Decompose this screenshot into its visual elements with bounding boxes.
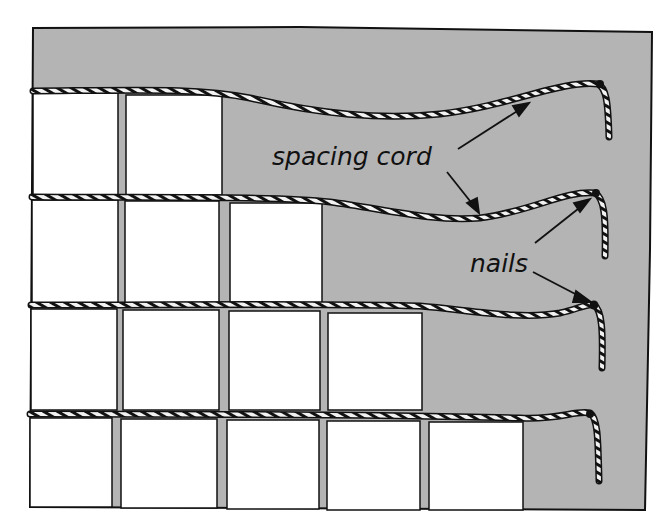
tile: [33, 93, 118, 195]
nail-icon: [592, 189, 600, 197]
tile: [327, 421, 420, 510]
tile-row-2: [32, 200, 322, 303]
tile-spacing-diagram: spacing cord nails: [0, 0, 663, 524]
nail-icon: [586, 410, 594, 418]
tile: [125, 201, 219, 303]
label-spacing-cord: spacing cord: [272, 142, 432, 171]
tile: [227, 420, 319, 509]
tile: [429, 422, 523, 510]
tile: [123, 310, 219, 410]
tile: [121, 419, 217, 508]
tile: [32, 200, 118, 303]
nail-icon: [596, 80, 604, 88]
tile: [230, 203, 322, 303]
tile: [30, 418, 112, 507]
tile-row-1: [33, 93, 222, 195]
tile: [31, 309, 117, 410]
tile: [229, 311, 320, 410]
tile: [126, 95, 222, 195]
tile: [328, 313, 422, 410]
label-nails: nails: [470, 249, 528, 278]
tile-row-4: [30, 418, 523, 510]
